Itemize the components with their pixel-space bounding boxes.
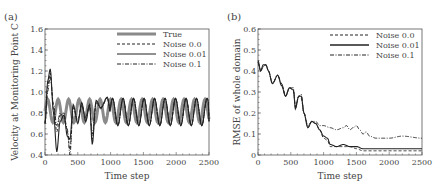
panel-b-ylabel: RMSE of whole domain [232, 38, 242, 145]
legend-b-noise001-label: Noise 0.01 [376, 41, 420, 50]
panel-b-label: (b) [227, 11, 241, 22]
ytick-label: 0.2 [243, 109, 256, 118]
ytick-label: 0.4 [30, 151, 43, 160]
panel-b-xlabel: Time step [318, 171, 363, 181]
xtick-label: 1000 [100, 158, 120, 167]
panel-b-ytick-labels: 00.10.20.30.40.50.6 [243, 25, 256, 160]
series-noise-0-1 [258, 63, 422, 139]
xtick-label: 500 [70, 158, 85, 167]
panel-a: (a) 0.40.60.81.01.21.41.6 05001000150020… [4, 11, 219, 181]
xtick-label: 2500 [199, 158, 219, 167]
legend-true-label: True [163, 30, 182, 39]
xtick-label: 2500 [412, 158, 432, 167]
ytick-label: 0.4 [243, 67, 256, 76]
ytick-label: 1.4 [30, 46, 43, 55]
series-noise-0-01 [258, 61, 422, 149]
ytick-label: 1.2 [30, 67, 43, 76]
panel-b-series [258, 61, 422, 151]
xtick-label: 2000 [166, 158, 186, 167]
panel-b-legend: Noise 0.0 Noise 0.01 Noise 0.1 [330, 31, 420, 60]
xtick-label: 1500 [346, 158, 366, 167]
ytick-label: 0.5 [243, 46, 256, 55]
legend-b-noise01-label: Noise 0.1 [376, 51, 414, 60]
panel-b-xtick-labels: 05001000150020002500 [255, 158, 432, 167]
panel-a-ytick-labels: 0.40.60.81.01.21.41.6 [30, 25, 43, 160]
xtick-label: 1000 [313, 158, 333, 167]
ytick-label: 0.1 [243, 130, 256, 139]
series-noise-0-0 [258, 63, 422, 151]
panel-a-xlabel: Time step [105, 171, 150, 181]
series-noise-0-01 [45, 69, 209, 152]
ytick-label: 0.6 [243, 25, 256, 34]
xtick-label: 2000 [379, 158, 399, 167]
panel-b: (b) 00.10.20.30.40.50.6 0500100015002000… [227, 11, 432, 181]
legend-b-noise00-label: Noise 0.0 [376, 31, 414, 40]
ytick-label: 0.8 [30, 109, 43, 118]
ytick-label: 1.6 [30, 25, 43, 34]
panel-a-ylabel: Velocity at Monitoring Point C [10, 23, 20, 162]
xtick-label: 1500 [133, 158, 153, 167]
figure: (a) 0.40.60.81.01.21.41.6 05001000150020… [0, 0, 441, 187]
legend-noise01-label: Noise 0.1 [163, 60, 201, 69]
panel-a-label: (a) [4, 11, 18, 22]
ytick-label: 0.6 [30, 130, 43, 139]
xtick-label: 500 [283, 158, 298, 167]
panel-a-legend: True Noise 0.0 Noise 0.01 Noise 0.1 [117, 30, 207, 69]
legend-noise00-label: Noise 0.0 [163, 40, 201, 49]
legend-noise001-label: Noise 0.01 [163, 50, 207, 59]
xtick-label: 0 [42, 158, 47, 167]
panel-a-xtick-labels: 05001000150020002500 [42, 158, 219, 167]
xtick-label: 0 [255, 158, 260, 167]
ytick-label: 0.3 [243, 88, 256, 97]
panel-a-series [45, 69, 209, 155]
ytick-label: 1.0 [30, 88, 43, 97]
